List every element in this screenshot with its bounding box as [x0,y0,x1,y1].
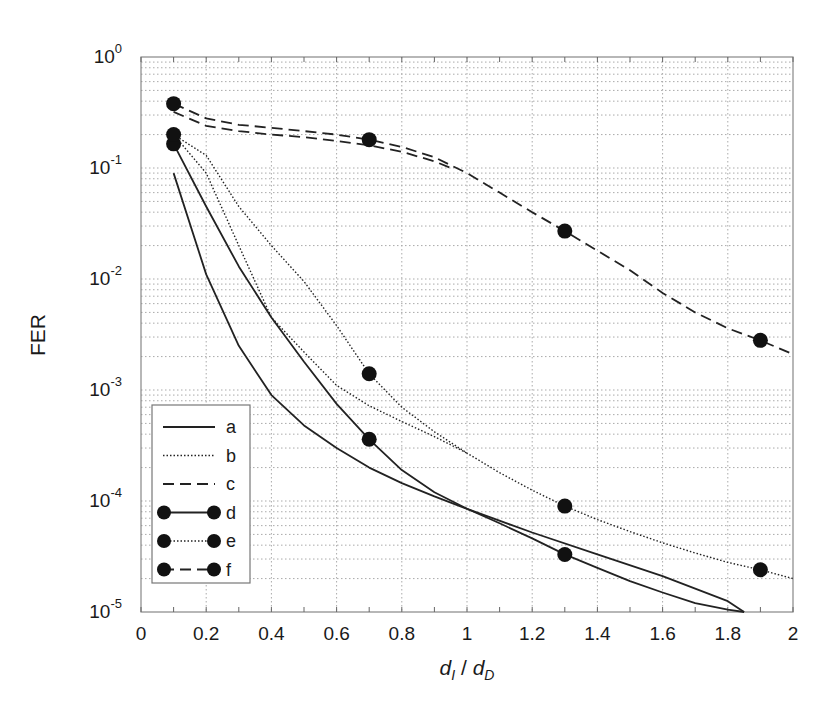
x-tick-label: 1.4 [584,623,611,644]
marker-d [362,432,377,447]
series-e [166,127,793,579]
x-tick-label: 1.8 [715,623,741,644]
x-label-sub2: D [484,667,494,683]
x-tick-label: 2 [788,623,799,644]
y-axis-label: FER [26,314,49,356]
x-axis-label: dI / dD [440,656,495,683]
x-tick-label: 0 [136,623,147,644]
y-tick-label: 10-4 [89,485,122,511]
series-a [174,173,745,612]
marker-e [166,127,181,142]
x-tick-labels: 00.20.40.60.811.21.41.61.82 [136,623,799,644]
fer-chart: 00.20.40.60.811.21.41.61.82 10010-110-21… [0,0,835,717]
y-tick-label: 10-3 [89,374,122,400]
legend-label: e [226,531,236,551]
y-tick-label: 10-2 [89,263,122,289]
marker-f [557,224,572,239]
legend: abcdef [152,405,250,583]
legend-marker-icon [207,506,221,520]
legend-marker-icon [157,506,171,520]
x-tick-label: 0.8 [389,623,415,644]
marker-e [557,499,572,514]
x-tick-label: 0.4 [258,623,285,644]
legend-marker-icon [157,534,171,548]
y-tick-label: 10-5 [89,596,122,622]
y-tick-labels: 10010-110-210-310-410-5 [89,41,122,622]
legend-label: d [226,503,236,523]
y-tick-label: 100 [94,41,122,67]
marker-d [557,547,572,562]
series-layer [166,96,793,612]
series-line-e [174,135,793,579]
legend-label: a [226,417,237,437]
series-f [166,96,793,354]
marker-f [362,132,377,147]
legend-label: c [226,474,235,494]
legend-label: b [226,446,236,466]
marker-e [753,562,768,577]
marker-e [362,366,377,381]
legend-marker-icon [157,563,171,577]
y-tick-label: 10-1 [89,152,122,178]
x-tick-label: 0.2 [193,623,219,644]
series-line-f [174,104,793,355]
legend-marker-icon [207,563,221,577]
x-tick-label: 1 [462,623,473,644]
x-label-sep: / [455,656,473,679]
x-tick-label: 0.6 [323,623,349,644]
legend-marker-icon [207,534,221,548]
marker-f [166,96,181,111]
series-line-a [174,173,745,612]
x-tick-label: 1.2 [519,623,545,644]
marker-f [753,333,768,348]
x-tick-label: 1.6 [649,623,675,644]
